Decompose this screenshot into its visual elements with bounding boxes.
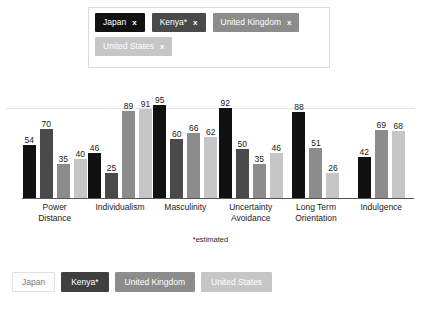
close-icon[interactable]: x <box>287 19 291 27</box>
category-label: Individualism <box>87 202 152 224</box>
bar-value-label: 42 <box>360 148 369 157</box>
bar[interactable] <box>270 153 283 198</box>
bar-group: 95606662 <box>153 88 218 198</box>
bar-column: 51 <box>309 88 322 198</box>
chart-plot-area: 5470354046258991956066629250354688512642… <box>22 88 414 198</box>
bar[interactable] <box>187 133 200 198</box>
bar-value-label: 60 <box>172 130 181 139</box>
bar-value-label: 62 <box>206 128 215 137</box>
filter-chip-united-states[interactable]: United States x <box>95 37 172 56</box>
bar-group: 885126 <box>283 88 348 198</box>
bar-value-label: 68 <box>394 122 403 131</box>
category-label: UncertaintyAvoidance <box>218 202 283 224</box>
filter-chip-japan-label: Japan <box>103 18 126 27</box>
bar-column: 69 <box>375 88 388 198</box>
bar-group: 46258991 <box>87 88 152 198</box>
filter-chip-kenya[interactable]: Kenya* x <box>152 13 206 32</box>
country-filter-panel: Japan x Kenya* x United Kingdom x United… <box>88 7 330 68</box>
bar[interactable] <box>204 137 217 198</box>
bar-value-label: 92 <box>220 99 229 108</box>
bar[interactable] <box>40 129 53 198</box>
hofstede-bar-chart: 5470354046258991956066629250354688512642… <box>0 88 421 210</box>
bar[interactable] <box>23 145 36 198</box>
bar-column: 54 <box>23 88 36 198</box>
bar-value-label: 35 <box>58 155 67 164</box>
bar-column: 70 <box>40 88 53 198</box>
bar[interactable] <box>74 159 87 198</box>
bar-group: 92503546 <box>218 88 283 198</box>
bar-column: 68 <box>392 88 405 198</box>
bar-column: 35 <box>57 88 70 198</box>
bar-value-label: 46 <box>271 144 280 153</box>
bar[interactable] <box>105 173 118 198</box>
category-label: Indulgence <box>349 202 414 224</box>
filter-chip-row-1: Japan x Kenya* x United Kingdom x <box>95 13 323 32</box>
bar-column: 26 <box>326 88 339 198</box>
bar[interactable] <box>309 148 322 198</box>
bar-column: 42 <box>358 88 371 198</box>
legend-item-united-states[interactable]: United States <box>201 272 272 292</box>
filter-chip-united-kingdom[interactable]: United Kingdom x <box>213 13 300 32</box>
bar-column: 89 <box>122 88 135 198</box>
bar-value-label: 70 <box>41 120 50 129</box>
bar-column: 88 <box>292 88 305 198</box>
bar[interactable] <box>57 164 70 198</box>
bar[interactable] <box>358 157 371 198</box>
bar-value-label: 54 <box>24 136 33 145</box>
bar-value-label: 88 <box>294 103 303 112</box>
bar[interactable] <box>292 112 305 198</box>
bar-value-label: 89 <box>124 102 133 111</box>
category-label: Long TermOrientation <box>283 202 348 224</box>
bar-value-label: 35 <box>254 155 263 164</box>
bar-value-label: 46 <box>90 144 99 153</box>
bar[interactable] <box>153 105 166 198</box>
bar-column: 46 <box>88 88 101 198</box>
category-label: Masculinity <box>153 202 218 224</box>
legend-item-japan-label: Japan <box>22 278 45 287</box>
bar[interactable] <box>236 149 249 198</box>
bar[interactable] <box>392 131 405 198</box>
bar-column: 40 <box>74 88 87 198</box>
bar[interactable] <box>170 139 183 198</box>
bar-column: 91 <box>139 88 152 198</box>
bar[interactable] <box>253 164 266 198</box>
bar-value-label: 40 <box>75 150 84 159</box>
filter-chip-row-2: United States x <box>95 37 323 56</box>
bar-column: 62 <box>204 88 217 198</box>
legend-item-united-kingdom[interactable]: United Kingdom <box>115 272 195 292</box>
legend-item-united-states-label: United States <box>211 278 262 287</box>
filter-chip-japan[interactable]: Japan x <box>95 13 145 32</box>
bar-value-label: 69 <box>377 121 386 130</box>
bar-group: 426968 <box>349 88 414 198</box>
bar-column: 50 <box>236 88 249 198</box>
bar-value-label: 50 <box>237 140 246 149</box>
bar[interactable] <box>122 111 135 198</box>
bar-column: 46 <box>270 88 283 198</box>
filter-chip-united-states-label: United States <box>103 42 154 51</box>
bar-value-label: 95 <box>155 96 164 105</box>
bar[interactable] <box>139 109 152 198</box>
close-icon[interactable]: x <box>193 19 197 27</box>
bar-column: 92 <box>219 88 232 198</box>
bar-group: 54703540 <box>22 88 87 198</box>
bar[interactable] <box>326 173 339 198</box>
legend-item-kenya-label: Kenya* <box>71 278 98 287</box>
bar-column: 35 <box>253 88 266 198</box>
legend-item-kenya[interactable]: Kenya* <box>61 272 108 292</box>
chart-category-labels: PowerDistanceIndividualismMasculinityUnc… <box>22 202 414 224</box>
filter-chip-united-kingdom-label: United Kingdom <box>221 18 281 27</box>
bar-value-label: 25 <box>107 164 116 173</box>
legend-item-united-kingdom-label: United Kingdom <box>125 278 185 287</box>
bar-column: 95 <box>153 88 166 198</box>
close-icon[interactable]: x <box>132 19 136 27</box>
bar[interactable] <box>88 153 101 198</box>
category-label: PowerDistance <box>22 202 87 224</box>
bar[interactable] <box>375 130 388 198</box>
bar-value-label: 91 <box>141 100 150 109</box>
bar[interactable] <box>219 108 232 198</box>
legend-item-japan[interactable]: Japan <box>12 272 55 292</box>
close-icon[interactable]: x <box>160 43 164 51</box>
chart-legend: Japan Kenya* United Kingdom United State… <box>12 272 272 292</box>
chart-footnote: *estimated <box>0 235 421 244</box>
chart-baseline-axis <box>22 198 414 199</box>
